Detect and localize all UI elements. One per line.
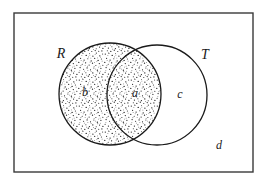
region-label-d: d (216, 138, 223, 152)
region-label-c: c (177, 87, 183, 101)
set-label-r: R (56, 46, 66, 61)
region-label-a: a (132, 86, 138, 100)
set-label-t: T (201, 47, 210, 62)
venn-diagram-figure: R T b a c d (0, 0, 264, 185)
region-label-b: b (82, 85, 88, 99)
venn-diagram-canvas: R T b a c d (0, 0, 264, 185)
